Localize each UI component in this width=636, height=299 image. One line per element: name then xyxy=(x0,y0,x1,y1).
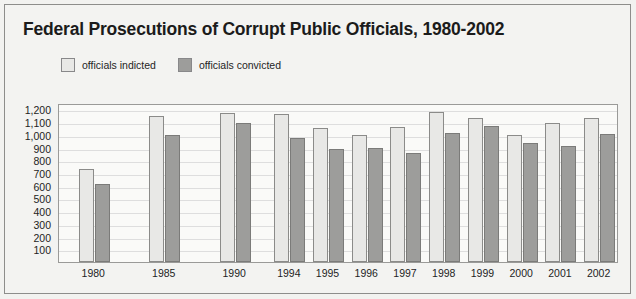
bar-indicted xyxy=(468,118,483,262)
y-axis-tick: 800 xyxy=(33,155,51,167)
bar-convicted xyxy=(523,143,538,262)
bar-group xyxy=(580,105,619,262)
bar-group xyxy=(348,105,387,262)
legend-swatch-indicted xyxy=(61,58,75,72)
y-axis: 1,2001,1001,0009008007006005004003002001… xyxy=(5,104,54,263)
page-frame: Federal Prosecutions of Corrupt Public O… xyxy=(4,4,631,294)
bar-indicted xyxy=(220,113,235,262)
y-axis-tick: 1,100 xyxy=(25,117,51,129)
bar-convicted xyxy=(368,148,383,262)
bar-group xyxy=(129,105,199,262)
bar-group xyxy=(464,105,503,262)
bar-group xyxy=(425,105,464,262)
x-axis-tick: 1995 xyxy=(316,267,339,279)
legend-label-indicted: officials indicted xyxy=(82,59,156,71)
bar-convicted xyxy=(236,123,251,262)
chart-page: Federal Prosecutions of Corrupt Public O… xyxy=(0,0,636,299)
x-axis-tick: 1985 xyxy=(152,267,175,279)
x-axis-tick: 2000 xyxy=(509,267,532,279)
bar-indicted xyxy=(274,114,289,262)
bar-indicted xyxy=(507,135,522,262)
x-axis-tick: 1980 xyxy=(82,267,105,279)
bar-group xyxy=(387,105,426,262)
x-axis-tick: 2002 xyxy=(587,267,610,279)
bar-convicted xyxy=(445,133,460,262)
bar-convicted xyxy=(329,149,344,262)
y-axis-tick: 1,000 xyxy=(25,130,51,142)
legend-item-indicted: officials indicted xyxy=(61,58,156,72)
y-axis-tick: 200 xyxy=(33,232,51,244)
x-axis: 1980198519901994199519961997199819992000… xyxy=(58,267,618,285)
legend-label-convicted: officials convicted xyxy=(199,59,281,71)
bar-group xyxy=(59,105,129,262)
bar-convicted xyxy=(561,146,576,262)
bar-group xyxy=(309,105,348,262)
bar-convicted xyxy=(600,134,615,262)
x-axis-tick: 2001 xyxy=(548,267,571,279)
x-axis-tick: 1996 xyxy=(355,267,378,279)
plot-area xyxy=(58,104,618,263)
bar-convicted xyxy=(406,153,421,262)
bar-indicted xyxy=(429,112,444,262)
bar-indicted xyxy=(390,127,405,262)
legend-item-convicted: officials convicted xyxy=(178,58,281,72)
bar-group xyxy=(200,105,270,262)
y-axis-tick: 600 xyxy=(33,181,51,193)
x-axis-tick: 1998 xyxy=(432,267,455,279)
x-axis-tick: 1990 xyxy=(223,267,246,279)
bar-indicted xyxy=(149,116,164,262)
y-axis-tick: 400 xyxy=(33,206,51,218)
chart-legend: officials indicted officials convicted xyxy=(61,57,281,73)
x-axis-tick: 1999 xyxy=(471,267,494,279)
y-axis-tick: 100 xyxy=(33,244,51,256)
y-axis-tick: 500 xyxy=(33,193,51,205)
bars-layer xyxy=(59,105,617,262)
y-axis-tick: 300 xyxy=(33,219,51,231)
bar-group xyxy=(542,105,581,262)
bar-indicted xyxy=(79,169,94,262)
bar-group xyxy=(270,105,309,262)
bar-convicted xyxy=(290,138,305,262)
bar-indicted xyxy=(584,118,599,262)
bar-indicted xyxy=(352,135,367,262)
bar-indicted xyxy=(545,123,560,262)
bar-convicted xyxy=(95,184,110,262)
y-axis-tick: 700 xyxy=(33,168,51,180)
bar-group xyxy=(503,105,542,262)
y-axis-tick: 1,200 xyxy=(25,104,51,116)
page-title: Federal Prosecutions of Corrupt Public O… xyxy=(23,19,504,40)
legend-swatch-convicted xyxy=(178,58,192,72)
bar-convicted xyxy=(484,126,499,262)
y-axis-tick: 900 xyxy=(33,143,51,155)
bar-convicted xyxy=(165,135,180,262)
x-axis-tick: 1997 xyxy=(393,267,416,279)
x-axis-tick: 1994 xyxy=(277,267,300,279)
bar-indicted xyxy=(313,128,328,262)
